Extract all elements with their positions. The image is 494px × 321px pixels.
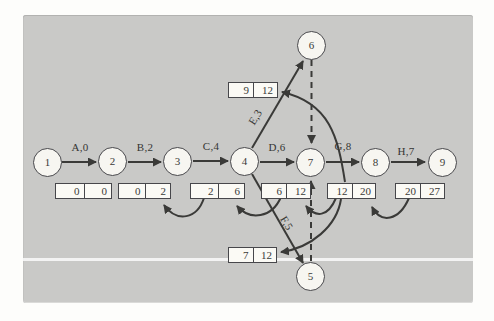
activity-label-b: B,2 [137, 141, 154, 153]
node-1: 1 [33, 148, 62, 177]
node-8-label: 8 [373, 157, 379, 168]
activity-label-g: G,8 [334, 140, 351, 152]
activity-label-a: A,0 [71, 141, 88, 153]
time-box-f-late-start: 7 [229, 248, 253, 262]
node-7: 7 [296, 148, 325, 177]
time-box-g: 12 20 [327, 183, 376, 199]
node-2-label: 2 [110, 156, 116, 167]
node-3-label: 3 [175, 156, 181, 167]
node-9-label: 9 [440, 157, 446, 168]
backward-pass-arrow-c-to-b [164, 198, 204, 216]
time-box-d-late-finish: 12 [286, 184, 310, 198]
time-box-a: 0 0 [55, 183, 112, 199]
time-box-b: 0 2 [118, 183, 171, 199]
time-box-g-late-finish: 20 [352, 184, 376, 198]
time-box-c-late-start: 2 [191, 184, 218, 198]
time-box-a-late-finish: 0 [84, 184, 112, 198]
node-8: 8 [361, 148, 390, 177]
time-box-e-late-start: 9 [229, 83, 253, 97]
node-5: 5 [296, 262, 325, 291]
time-box-g-late-start: 12 [328, 184, 352, 198]
node-5-label: 5 [308, 271, 314, 282]
time-box-a-late-start: 0 [56, 184, 84, 198]
time-box-c-late-finish: 6 [218, 184, 245, 198]
time-box-d: 6 12 [261, 183, 311, 199]
node-1-label: 1 [45, 157, 51, 168]
time-box-d-late-start: 6 [262, 184, 286, 198]
node-7-label: 7 [308, 157, 314, 168]
node-9: 9 [428, 148, 457, 177]
node-4-label: 4 [242, 156, 248, 167]
backward-pass-arrow-h-to-g [372, 198, 409, 218]
time-box-h-late-start: 20 [396, 184, 420, 198]
time-box-f: 7 12 [228, 247, 277, 263]
time-box-f-late-finish: 12 [253, 248, 277, 262]
time-box-h: 20 27 [395, 183, 445, 199]
time-box-b-late-start: 0 [119, 184, 145, 198]
time-box-b-late-finish: 2 [145, 184, 171, 198]
node-6: 6 [297, 31, 326, 60]
time-box-c: 2 6 [190, 183, 245, 199]
node-6-label: 6 [309, 40, 315, 51]
time-box-e-late-finish: 12 [253, 83, 277, 97]
node-2: 2 [98, 147, 127, 176]
time-box-e: 9 12 [228, 82, 278, 98]
activity-label-d: D,6 [268, 141, 285, 153]
activity-arrow-e [252, 61, 303, 148]
activity-label-h: H,7 [397, 145, 414, 157]
time-box-h-late-finish: 27 [420, 184, 444, 198]
activity-label-c: C,4 [203, 140, 220, 152]
pert-network-figure: 1 2 3 4 5 6 7 8 9 A,0 B,2 C,4 D,6 E,3 F,… [0, 0, 494, 321]
node-4: 4 [230, 147, 259, 176]
node-3: 3 [163, 147, 192, 176]
